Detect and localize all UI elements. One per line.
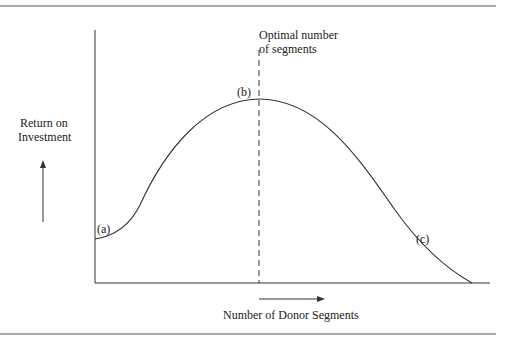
y-label-line2: Investment (18, 130, 71, 144)
roi-diagram (0, 0, 506, 342)
x-axis-label: Number of Donor Segments (223, 308, 359, 322)
x-arrow-head (317, 296, 325, 302)
roi-curve (95, 99, 472, 283)
y-arrow-head (40, 160, 46, 168)
point-c-label: (c) (416, 232, 429, 246)
optimal-label-line2: of segments (259, 42, 317, 56)
y-label-line1: Return on (20, 116, 68, 130)
optimal-label-line1: Optimal number (259, 28, 338, 42)
point-a-label: (a) (97, 222, 110, 236)
point-b-label: (b) (237, 85, 251, 99)
